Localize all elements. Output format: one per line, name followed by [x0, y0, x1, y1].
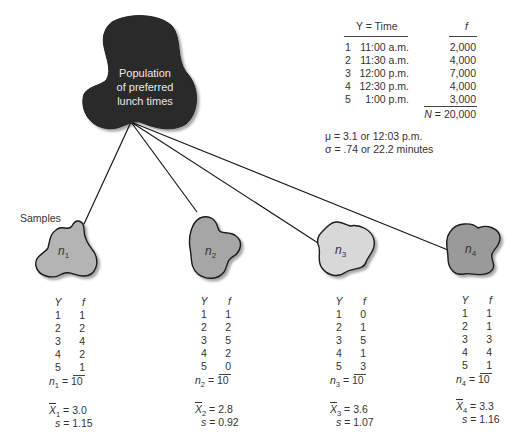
connector-to-sample-3 — [131, 122, 318, 243]
table-row: 11 — [460, 307, 519, 320]
row-frequency: 7,000 — [430, 67, 476, 79]
header-y: Y — [53, 296, 63, 308]
sample-label-4: n4 — [465, 242, 476, 258]
cell-y: 3 — [334, 334, 344, 346]
sample-size: n4 = 10 — [460, 373, 519, 386]
cell-y: 2 — [199, 321, 209, 333]
table-row: 10 — [334, 308, 394, 321]
header-f: f — [73, 296, 85, 308]
row-frequency: 4,000 — [430, 80, 476, 92]
cell-y: 5 — [53, 361, 63, 373]
cell-f: 2 — [219, 321, 231, 333]
population-table-header-y: Y = Time — [356, 20, 398, 32]
population-label-line: lunch times — [101, 94, 189, 108]
cell-y: 4 — [334, 347, 344, 359]
sd-value: = 1.15 — [63, 417, 93, 429]
row-time: 12:00 p.m. — [359, 67, 409, 79]
cell-f: 3 — [354, 360, 366, 372]
n-subscript: 4 — [462, 379, 466, 388]
cell-f: 0 — [354, 308, 366, 320]
cell-y: 5 — [199, 360, 209, 372]
population-mean: μ = 3.1 or 12:03 p.m. — [325, 130, 422, 142]
sample-label-2: n2 — [205, 244, 216, 260]
cell-f: 1 — [480, 320, 492, 332]
n-subscript: 1 — [55, 381, 59, 390]
sample-std-dev: s = 0.92 — [201, 416, 239, 428]
n-value: = 10 — [62, 375, 83, 387]
sample-size: n1 = 10 — [53, 375, 113, 388]
sample-size: n3 = 10 — [334, 374, 394, 387]
sample-subscript: 4 — [472, 249, 476, 258]
sample-name: n — [465, 242, 472, 256]
cell-y: 5 — [460, 359, 470, 371]
mean-symbol: X — [195, 403, 202, 415]
population-total-rule — [424, 106, 477, 107]
table-row: 22 — [199, 321, 259, 334]
cell-f: 5 — [219, 334, 231, 346]
mean-symbol: X — [330, 403, 337, 415]
sample-std-dev: s = 1.07 — [336, 416, 374, 428]
sd-symbol: s — [462, 413, 467, 425]
table-row: 51 — [53, 361, 113, 374]
cell-y: 3 — [199, 334, 209, 346]
total-value: = 20,000 — [435, 108, 476, 120]
table-row: 41 — [334, 347, 394, 360]
row-index: 4 — [345, 80, 355, 92]
population-label: Population of preferred lunch times — [101, 66, 189, 108]
table-row: 50 — [199, 360, 259, 373]
cell-f: 1 — [480, 307, 492, 319]
sample-std-dev: s = 1.16 — [462, 413, 500, 425]
cell-y: 1 — [460, 307, 470, 319]
header-f: f — [219, 295, 231, 307]
row-frequency: 4,000 — [430, 54, 476, 66]
row-time: 11:00 a.m. — [359, 41, 409, 53]
table-row: 44 — [460, 346, 519, 359]
cell-f: 3 — [480, 333, 492, 345]
row-index: 1 — [345, 41, 355, 53]
row-index: 5 — [345, 93, 355, 105]
cell-y: 1 — [199, 308, 209, 320]
table-row: 21 — [334, 321, 394, 334]
n-value: = 10 — [343, 374, 364, 386]
cell-y: 1 — [53, 309, 63, 321]
sd-symbol: s — [201, 416, 206, 428]
sample-subscript: 3 — [342, 250, 346, 259]
n-value: = 10 — [469, 373, 490, 385]
mean-symbol: X — [456, 400, 463, 412]
row-time: 1:00 p.m. — [359, 93, 409, 105]
total-symbol: N — [424, 108, 432, 120]
samples-label: Samples — [20, 212, 61, 224]
sample-name: n — [58, 244, 65, 258]
cell-y: 2 — [53, 322, 63, 334]
table-row: 22 — [53, 322, 113, 335]
sample-name: n — [335, 243, 342, 257]
cell-f: 1 — [219, 308, 231, 320]
cell-y: 1 — [334, 308, 344, 320]
cell-f: 5 — [354, 334, 366, 346]
table-row: 33 — [460, 333, 519, 346]
population-total: N = 20,000 — [420, 108, 476, 120]
cell-f: 4 — [73, 335, 85, 347]
cell-y: 2 — [460, 320, 470, 332]
cell-f: 2 — [73, 348, 85, 360]
header-y: Y — [460, 294, 470, 306]
sample-std-dev: s = 1.15 — [55, 417, 93, 429]
mean-value: = 3.3 — [470, 400, 494, 412]
cell-f: 0 — [219, 360, 231, 372]
cell-f: 1 — [73, 361, 85, 373]
row-frequency: 2,000 — [430, 41, 476, 53]
cell-f: 2 — [219, 347, 231, 359]
sd-symbol: s — [55, 417, 60, 429]
sample-subscript: 1 — [65, 251, 69, 260]
n-subscript: 2 — [201, 380, 205, 389]
table-row: 53 — [334, 360, 394, 373]
cell-y: 2 — [334, 321, 344, 333]
sample-label-1: n1 — [58, 244, 69, 260]
connector-to-sample-1 — [84, 122, 131, 224]
table-row: 42 — [199, 347, 259, 360]
population-std-dev: σ = .74 or 22.2 minutes — [325, 143, 433, 155]
header-y: Y — [334, 295, 344, 307]
header-f: f — [354, 295, 366, 307]
sd-value: = 1.16 — [470, 413, 500, 425]
sd-value: = 0.92 — [209, 416, 239, 428]
